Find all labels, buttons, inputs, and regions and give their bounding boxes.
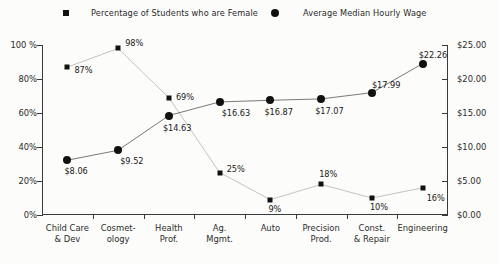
data-point-marker	[217, 170, 222, 175]
data-point-label: $9.52	[120, 156, 143, 166]
data-point-label: 16%	[427, 193, 445, 203]
x-axis-tick	[397, 214, 398, 219]
data-point-label: $8.06	[64, 166, 87, 176]
x-axis-tick	[296, 214, 297, 219]
left-axis-tick-label: 20%	[18, 176, 37, 186]
right-axis-tick-label: $0.00	[457, 210, 481, 220]
legend-item-female-percentage: Percentage of Students who are Female	[63, 8, 258, 18]
data-point-label: 87%	[74, 65, 92, 75]
x-axis-category-label: Engineering	[392, 223, 454, 234]
data-point-marker	[114, 146, 122, 154]
data-point-marker	[420, 185, 425, 190]
data-point-marker	[116, 46, 121, 51]
plot-area: 87%98%69%25%9%18%10%16%$8.06$9.52$14.63$…	[42, 45, 448, 215]
right-axis-tick-label: $5.00	[457, 176, 481, 186]
left-axis-tick	[37, 147, 43, 148]
data-point-label: $16.87	[264, 107, 293, 117]
data-point-label: 98%	[125, 38, 143, 48]
x-axis-tick	[347, 214, 348, 219]
right-axis-tick	[442, 181, 448, 182]
data-point-marker	[319, 182, 324, 187]
right-axis-tick	[442, 215, 448, 216]
right-axis-tick-label: $20.00	[457, 74, 486, 84]
data-point-marker	[369, 196, 374, 201]
left-axis-tick-label: 80%	[18, 74, 37, 84]
x-axis-tick	[245, 214, 246, 219]
left-axis-tick	[37, 79, 43, 80]
left-axis-tick-label: 0%	[24, 210, 37, 220]
data-point-label: 9%	[268, 204, 281, 214]
data-point-marker	[368, 89, 376, 97]
left-axis-tick-label: 40%	[18, 142, 37, 152]
data-point-label: $14.63	[163, 123, 192, 133]
x-axis-tick	[93, 214, 94, 219]
data-point-label: 25%	[227, 164, 245, 174]
data-point-label: $17.99	[372, 80, 401, 90]
left-axis-tick	[37, 215, 43, 216]
data-point-label: 10%	[370, 202, 388, 212]
left-axis-tick	[37, 113, 43, 114]
left-axis-tick	[37, 181, 43, 182]
data-point-marker	[63, 156, 71, 164]
left-axis-tick	[37, 45, 43, 46]
right-axis-tick	[442, 45, 448, 46]
right-axis-tick-label: $15.00	[457, 108, 486, 118]
data-point-label: 69%	[176, 92, 194, 102]
left-axis-tick-label: 60%	[18, 108, 37, 118]
right-axis-tick	[442, 113, 448, 114]
data-point-marker	[165, 112, 173, 120]
data-point-marker	[216, 98, 224, 106]
data-point-marker	[419, 60, 427, 68]
right-axis-tick	[442, 79, 448, 80]
data-point-marker	[266, 96, 274, 104]
right-axis-tick-label: $25.00	[457, 40, 486, 50]
chart-container: Percentage of Students who are Female Av…	[0, 0, 499, 264]
data-point-marker	[166, 95, 171, 100]
data-point-marker	[268, 197, 273, 202]
chart-legend: Percentage of Students who are Female Av…	[0, 8, 499, 30]
data-point-label: $17.07	[315, 106, 344, 116]
square-marker-icon	[63, 10, 69, 16]
data-point-label: 18%	[319, 169, 337, 179]
right-axis-tick	[442, 147, 448, 148]
series-line	[67, 48, 422, 199]
data-point-marker	[65, 65, 70, 70]
x-axis-tick	[144, 214, 145, 219]
legend-item-hourly-wage: Average Median Hourly Wage	[271, 8, 426, 18]
data-point-label: $16.63	[222, 108, 251, 118]
left-axis-tick-label: 100 %	[10, 40, 37, 50]
legend-label-hourly-wage: Average Median Hourly Wage	[303, 8, 426, 18]
series-lines	[42, 45, 448, 215]
right-axis-tick-label: $10.00	[457, 142, 486, 152]
x-axis-tick	[194, 214, 195, 219]
data-point-marker	[317, 95, 325, 103]
data-point-label: $22.26	[419, 50, 448, 60]
circle-marker-icon	[271, 9, 279, 17]
legend-label-female-percentage: Percentage of Students who are Female	[91, 8, 258, 18]
